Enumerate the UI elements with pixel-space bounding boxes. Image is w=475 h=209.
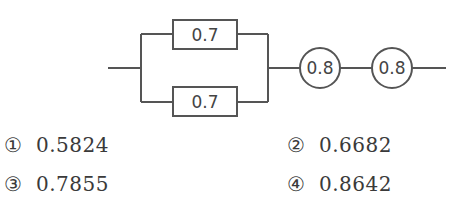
option-3: ③0.7855 [4, 172, 109, 196]
series-component-1-label: 0.8 [306, 58, 333, 78]
bottom-component-label: 0.7 [191, 92, 218, 112]
top-component-label: 0.7 [191, 25, 218, 45]
option-2-value: 0.6682 [319, 133, 392, 157]
option-1-marker: ① [4, 133, 28, 157]
option-2: ②0.6682 [287, 133, 392, 157]
option-4-marker: ④ [287, 172, 311, 196]
option-1-value: 0.5824 [36, 133, 109, 157]
option-4-value: 0.8642 [319, 172, 392, 196]
option-3-value: 0.7855 [36, 172, 109, 196]
option-3-marker: ③ [4, 172, 28, 196]
series-component-2-label: 0.8 [378, 58, 405, 78]
option-4: ④0.8642 [287, 172, 392, 196]
option-2-marker: ② [287, 133, 311, 157]
option-1: ①0.5824 [4, 133, 109, 157]
reliability-diagram: 0.7 0.7 0.8 0.8 [0, 0, 475, 130]
